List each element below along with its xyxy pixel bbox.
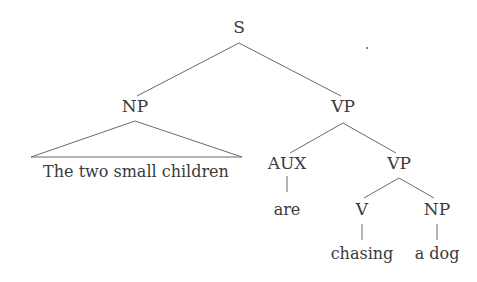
node-aux: AUX [268,155,307,172]
syntax-tree-edges [0,0,477,282]
edge-s-np [137,43,239,96]
edge-s-vp [239,43,341,96]
edge-vp-vp2 [343,123,396,153]
node-np: NP [122,98,148,115]
leaf-are: are [274,202,301,218]
node-v: V [356,201,368,218]
node-vp2: VP [387,155,411,172]
node-s: S [233,19,245,36]
leaf-np-phrase: The two small children [43,164,229,180]
node-np2: NP [424,201,450,218]
np-triangle [31,121,242,157]
edge-vp2-v [364,178,399,198]
node-vp: VP [331,98,355,115]
leaf-chasing: chasing [331,246,394,262]
edge-vp2-np2 [399,178,434,198]
leaf-a-dog: a dog [415,246,460,262]
edge-vp-aux [290,123,343,153]
stray-dot [366,47,368,49]
